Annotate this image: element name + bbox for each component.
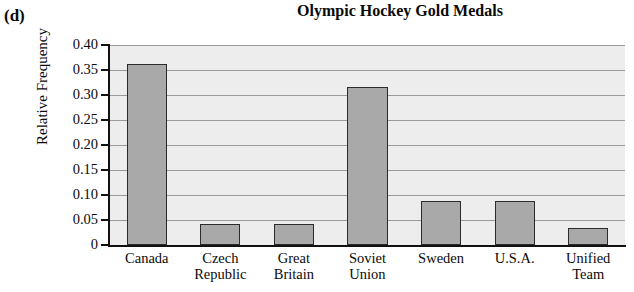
y-tick-label: 0 xyxy=(52,237,98,252)
y-tick-label: 0.10 xyxy=(52,187,98,202)
gridline xyxy=(110,45,625,46)
y-tick-label: 0.15 xyxy=(52,162,98,177)
bar xyxy=(568,228,608,245)
x-category-label-line: Britain xyxy=(257,266,331,282)
y-tick-mark xyxy=(101,119,109,121)
y-tick-mark xyxy=(101,69,109,71)
y-tick-mark xyxy=(101,244,109,246)
x-category-label: U.S.A. xyxy=(478,250,552,266)
y-tick-label: 0.35 xyxy=(52,62,98,77)
x-category-label-line: Great xyxy=(257,250,331,266)
x-axis-line xyxy=(108,245,626,247)
x-category-label: GreatBritain xyxy=(257,250,331,282)
x-category-label: SovietUnion xyxy=(331,250,405,282)
x-category-label-line: Soviet xyxy=(331,250,405,266)
bar xyxy=(421,201,461,245)
y-tick-label: 0.20 xyxy=(52,137,98,152)
y-tick-mark xyxy=(101,144,109,146)
y-tick-label: 0.30 xyxy=(52,87,98,102)
x-category-label-line: U.S.A. xyxy=(478,250,552,266)
y-tick-label: 0.40 xyxy=(52,37,98,52)
x-category-label: CzechRepublic xyxy=(184,250,258,282)
plot-area xyxy=(110,45,625,245)
x-category-label-line: Unified xyxy=(551,250,625,266)
y-tick-mark xyxy=(101,44,109,46)
x-category-label-line: Union xyxy=(331,266,405,282)
x-category-label: Canada xyxy=(110,250,184,266)
figure: (d) Olympic Hockey Gold Medals Relative … xyxy=(0,0,634,292)
x-category-label: UnifiedTeam xyxy=(551,250,625,282)
y-tick-mark xyxy=(101,169,109,171)
y-tick-label: 0.05 xyxy=(52,212,98,227)
x-category-label-line: Czech xyxy=(184,250,258,266)
bar xyxy=(274,224,314,246)
y-tick-labels: 00.050.100.150.200.250.300.350.40 xyxy=(48,0,98,292)
x-category-label: Sweden xyxy=(404,250,478,266)
y-tick-mark xyxy=(101,94,109,96)
panel-label: (d) xyxy=(4,6,25,26)
gridline xyxy=(110,70,625,71)
bar xyxy=(127,64,167,245)
x-category-label-line: Sweden xyxy=(404,250,478,266)
bar xyxy=(200,224,240,246)
y-tick-label: 0.25 xyxy=(52,112,98,127)
x-category-label-line: Canada xyxy=(110,250,184,266)
chart-title: Olympic Hockey Gold Medals xyxy=(190,2,610,20)
y-tick-mark xyxy=(101,194,109,196)
bar xyxy=(347,87,387,245)
bar xyxy=(495,201,535,245)
y-tick-mark xyxy=(101,219,109,221)
x-category-label-line: Team xyxy=(551,266,625,282)
x-category-label-line: Republic xyxy=(184,266,258,282)
